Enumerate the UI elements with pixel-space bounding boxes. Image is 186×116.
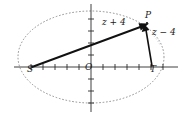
- label-origin-o: O: [85, 63, 92, 72]
- label-focus-t: T: [150, 65, 156, 74]
- label-focus-s: S: [27, 65, 33, 74]
- label-point-p: P: [145, 11, 151, 20]
- vector-s-to-p: [32, 23, 149, 67]
- label-vector-z-minus-4: z − 4: [152, 28, 176, 37]
- point-p-marker: [146, 22, 148, 24]
- ellipse-diagram: S O T P z + 4 z − 4: [0, 0, 186, 116]
- diagram-canvas: [0, 0, 186, 116]
- label-vector-z-plus-4: z + 4: [102, 18, 126, 27]
